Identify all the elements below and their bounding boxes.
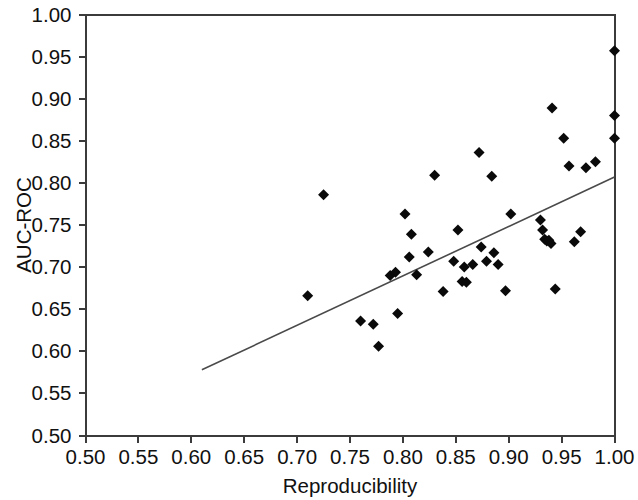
x-tick-label-5: 0.75	[330, 445, 370, 468]
data-point	[488, 247, 499, 258]
data-point	[448, 256, 459, 267]
data-point	[505, 209, 516, 220]
y-tick-label-8: 0.90	[32, 87, 72, 110]
data-point	[452, 225, 463, 236]
x-tick-label-10: 1.00	[595, 445, 635, 468]
y-tick-label-6: 0.80	[32, 171, 72, 194]
y-tick-label-0: 0.50	[32, 424, 72, 447]
y-tick-label-9: 0.95	[32, 45, 72, 68]
data-point	[609, 45, 620, 56]
data-point	[590, 156, 601, 167]
x-tick-label-3: 0.65	[224, 445, 264, 468]
x-tick-label-4: 0.70	[277, 445, 317, 468]
x-tick-label-2: 0.60	[171, 445, 211, 468]
x-axis-title: Reproducibility	[283, 474, 418, 497]
regression-trend-line	[202, 177, 615, 370]
x-tick-label-8: 0.90	[489, 445, 529, 468]
data-point	[406, 229, 417, 240]
y-axis-tick-marks	[79, 15, 86, 436]
y-tick-label-5: 0.75	[32, 213, 72, 236]
data-point	[459, 262, 470, 273]
data-point	[355, 315, 366, 326]
data-point	[404, 251, 415, 262]
x-tick-label-9: 0.95	[542, 445, 582, 468]
x-tick-label-1: 0.55	[118, 445, 158, 468]
data-point	[392, 308, 403, 319]
data-point	[467, 259, 478, 270]
data-point	[368, 319, 379, 330]
data-point	[500, 285, 511, 296]
scatter-chart-figure: 0.500.550.600.650.700.750.800.850.900.95…	[0, 0, 638, 500]
y-tick-label-2: 0.60	[32, 339, 72, 362]
data-point	[558, 133, 569, 144]
x-tick-label-6: 0.80	[383, 445, 423, 468]
data-point	[580, 162, 591, 173]
data-point	[400, 209, 411, 220]
data-point	[550, 283, 561, 294]
data-point	[486, 171, 497, 182]
x-axis-tick-labels: 0.500.550.600.650.700.750.800.850.900.95…	[66, 445, 635, 468]
y-tick-label-3: 0.65	[32, 297, 72, 320]
y-axis-title: AUC-ROC	[12, 177, 35, 273]
data-point	[609, 110, 620, 121]
y-tick-label-4: 0.70	[32, 255, 72, 278]
data-point	[569, 236, 580, 247]
data-point	[429, 170, 440, 181]
y-tick-label-10: 1.00	[32, 3, 72, 26]
data-point	[438, 286, 449, 297]
data-point	[318, 189, 329, 200]
data-point	[474, 147, 485, 158]
data-point	[423, 246, 434, 257]
plot-frame	[86, 15, 615, 436]
x-tick-label-7: 0.85	[436, 445, 476, 468]
chart-canvas: 0.500.550.600.650.700.750.800.850.900.95…	[0, 0, 638, 500]
data-point	[537, 225, 548, 236]
data-point	[535, 214, 546, 225]
y-tick-label-7: 0.85	[32, 129, 72, 152]
y-axis-tick-labels: 0.500.550.600.650.700.750.800.850.900.95…	[32, 3, 72, 447]
data-point	[564, 161, 575, 172]
data-point	[609, 133, 620, 144]
x-axis-tick-marks	[86, 436, 615, 443]
data-point	[302, 290, 313, 301]
data-point	[575, 226, 586, 237]
data-point-series	[302, 45, 620, 352]
data-point	[493, 259, 504, 270]
x-tick-label-0: 0.50	[66, 445, 106, 468]
data-point	[476, 241, 487, 252]
data-point	[481, 256, 492, 267]
data-point	[547, 102, 558, 113]
data-point	[373, 341, 384, 352]
y-tick-label-1: 0.55	[32, 381, 72, 404]
